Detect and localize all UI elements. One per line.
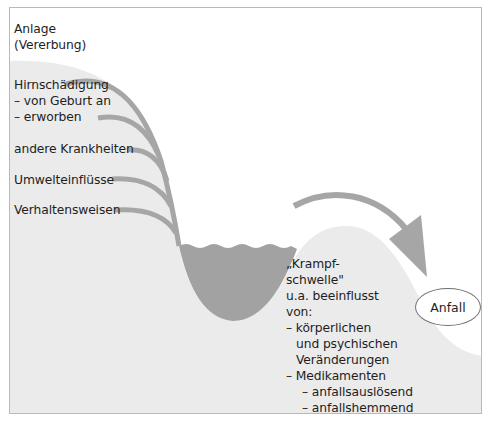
factor-heredity-line2: (Vererbung)	[14, 37, 86, 53]
seizure-outcome-label: Anfall	[430, 300, 465, 315]
threshold-line: und psychischen	[286, 336, 413, 352]
factor-heredity: Anlage (Vererbung)	[14, 21, 86, 53]
threshold-line: – anfallsauslösend	[286, 384, 413, 400]
threshold-line: – Medikamenten	[286, 368, 413, 384]
threshold-line: von:	[286, 304, 413, 320]
factor-brain-damage-line3: – erworben	[14, 109, 111, 125]
factor-heredity-line1: Anlage	[14, 21, 86, 37]
threshold-line: u.a. beeinflusst	[286, 288, 413, 304]
factor-other-diseases: andere Krankheiten	[14, 141, 134, 157]
threshold-line: schwelle"	[286, 272, 413, 288]
seizure-arrow-shaft	[294, 195, 406, 229]
threshold-line: – körperlichen	[286, 320, 413, 336]
factor-environment: Umwelteinflüsse	[14, 172, 114, 188]
threshold-line: Veränderungen	[286, 352, 413, 368]
seizure-threshold-text: „Krampf- schwelle" u.a. beeinflusst von:…	[286, 256, 413, 414]
factor-brain-damage-line2: – von Geburt an	[14, 93, 111, 109]
factor-behavior: Verhaltensweisen	[14, 202, 120, 218]
factor-brain-damage-line1: Hirnschädigung	[14, 77, 111, 93]
factor-brain-damage: Hirnschädigung – von Geburt an – erworbe…	[14, 77, 111, 125]
diagram-frame: Anlage (Vererbung) Hirnschädigung – von …	[9, 7, 482, 414]
threshold-line: – anfallshemmend	[286, 400, 413, 414]
threshold-line: „Krampf-	[286, 256, 413, 272]
seizure-outcome-ellipse: Anfall	[415, 288, 481, 326]
